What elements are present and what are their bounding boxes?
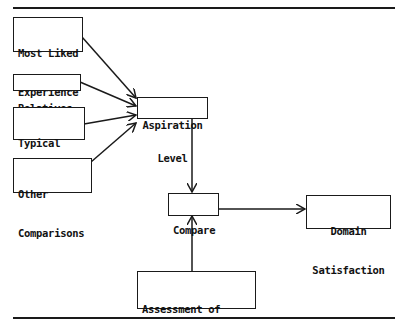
node-compare: Compare: [168, 193, 219, 216]
node-label: Compare: [173, 224, 214, 237]
node-label: Aspiration: [140, 120, 205, 131]
node-label: Typical: [18, 137, 80, 150]
node-most-liked-experience: Most Liked Experience: [13, 17, 83, 52]
node-label: Comparisons: [18, 227, 87, 240]
node-label: Most Liked: [18, 47, 78, 60]
node-label: Satisfaction: [311, 264, 386, 277]
node-label: Level: [140, 153, 205, 164]
node-label: Domain: [311, 225, 386, 238]
node-assessment-current-situation: Assessment of Current Situation: [137, 271, 256, 309]
edge-typical-to-aspiration: [84, 115, 136, 124]
node-relatives: Relatives: [13, 74, 81, 91]
node-other-comparisons: Other Comparisons: [13, 158, 92, 193]
edge-other-to-aspiration: [91, 123, 136, 162]
node-label: Assessment of: [142, 303, 251, 316]
node-aspiration-level: Aspiration Level: [137, 97, 208, 119]
edge-relatives-to-aspiration: [80, 82, 136, 106]
node-typical-american: Typical American: [13, 107, 85, 140]
node-domain-satisfaction: Domain Satisfaction: [306, 195, 391, 229]
node-label: Other: [18, 188, 87, 201]
edge-most-liked-to-aspiration: [82, 37, 136, 98]
